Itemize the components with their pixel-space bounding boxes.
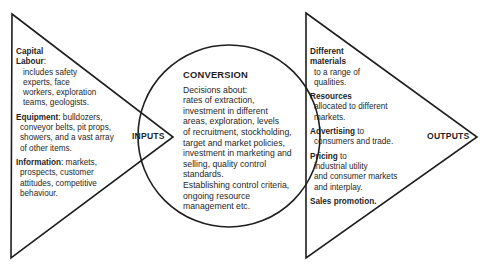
outputs-resources: Resources allocated to different markets…	[310, 92, 430, 123]
outputs-content: Different materials to a range of qualit…	[310, 47, 430, 211]
inputs-labour: Labour: includes safety experts, face wo…	[16, 57, 156, 108]
outputs-pricing: Pricing to industrial utility and consum…	[310, 152, 430, 193]
inputs-content: Capital Labour: includes safety experts,…	[16, 47, 156, 203]
outputs-label: OUTPUTS	[427, 131, 469, 141]
inputs-label: INPUTS	[132, 131, 165, 141]
inputs-capital: Capital	[16, 47, 156, 57]
outputs-sales-promotion: Sales promotion.	[310, 197, 430, 207]
conversion-content: CONVERSION Decisions about: rates of ext…	[183, 70, 313, 212]
inputs-information: Information: markets, prospects, custome…	[16, 158, 156, 199]
outputs-materials: Different materials to a range of qualit…	[310, 47, 430, 88]
conversion-title: CONVERSION	[183, 70, 313, 81]
outputs-advertising: Advertising to consumers and trade.	[310, 127, 430, 148]
